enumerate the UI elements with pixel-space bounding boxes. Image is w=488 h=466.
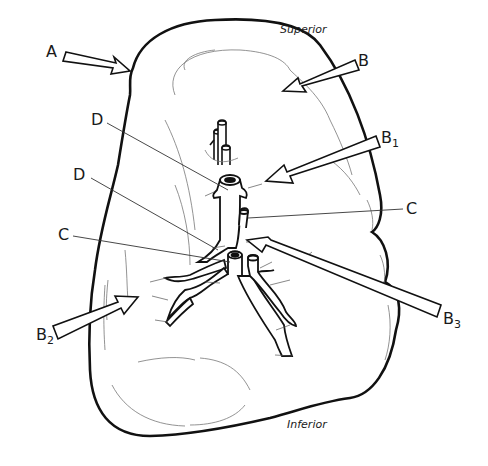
label-B2: B2 [36,327,54,346]
arrow-B2 [53,296,138,339]
leader-D-lower [91,178,218,250]
label-A-text: A [46,42,57,61]
label-B1: B1 [381,130,399,149]
arrow-B [283,60,359,92]
main-vessel-trunk [198,175,248,262]
label-D-lower-text: D [73,165,85,184]
label-D-upper-text: D [91,110,103,129]
label-B: B [358,53,369,69]
arrow-A [63,52,130,74]
label-C-left-text: C [58,225,69,244]
label-C-right-text: C [406,199,417,218]
arrow-B1 [266,136,380,183]
label-B2-sub: 2 [47,334,54,347]
surface-contours [104,50,390,426]
label-B1-sub: 1 [392,137,399,150]
organ-diagram [0,0,488,466]
label-C-right: C [406,201,417,217]
organ-outline [89,19,399,436]
label-A: A [46,44,57,60]
label-B3-text: B [443,309,454,328]
label-B3: B3 [443,311,461,330]
label-B3-sub: 3 [454,318,461,331]
label-B1-text: B [381,128,392,147]
orientation-superior: Superior [280,24,327,35]
upper-vessel-cluster [205,120,238,165]
label-B2-text: B [36,325,47,344]
label-C-left: C [58,227,69,243]
label-B-text: B [358,51,369,70]
label-D-lower: D [73,167,85,183]
lower-branching-vessels [165,252,296,357]
orientation-inferior: Inferior [287,419,327,430]
label-D-upper: D [91,112,103,128]
